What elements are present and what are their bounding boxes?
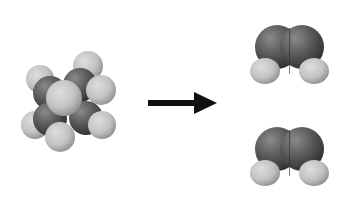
hydrogen-atom bbox=[299, 58, 329, 84]
hydrogen-atom bbox=[46, 80, 82, 116]
arrow-shaft bbox=[148, 100, 198, 106]
hydrogen-atom bbox=[250, 58, 280, 84]
arrow-head-icon bbox=[194, 92, 217, 114]
cyclobutane-molecule bbox=[21, 51, 116, 152]
ethylene-molecule-top bbox=[250, 25, 329, 84]
reaction-diagram bbox=[0, 0, 364, 207]
reaction-svg bbox=[0, 0, 364, 207]
hydrogen-atom bbox=[250, 160, 280, 186]
hydrogen-atom bbox=[45, 122, 75, 152]
hydrogen-atom bbox=[88, 111, 116, 139]
reaction-arrow bbox=[148, 92, 217, 114]
ethylene-molecule-bottom bbox=[250, 127, 329, 186]
hydrogen-atom bbox=[86, 75, 116, 105]
hydrogen-atom bbox=[299, 160, 329, 186]
